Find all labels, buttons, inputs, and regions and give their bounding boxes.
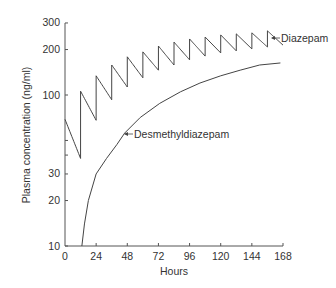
desmethyldiazepam-label: Desmethyldiazepam [134,128,229,140]
x-tick-label: 72 [153,250,165,262]
x-tick-label: 144 [243,250,261,262]
x-tick-label: 0 [62,250,68,262]
x-tick-label: 168 [274,250,292,262]
x-tick-label: 48 [121,250,133,262]
x-axis-title: Hours [160,265,188,277]
y-axis-title: Plasma concentration (ng/ml) [20,67,32,204]
y-tick-label: 30 [48,167,60,179]
x-tick-label: 96 [184,250,196,262]
y-tick-label: 300 [42,16,60,28]
annotation-desmethyldiazepam: Desmethyldiazepam [124,128,229,140]
y-tick-label: 200 [42,43,60,55]
pharmacokinetic-chart: 102030100200300 024487296120144168 Diaze… [0,0,336,288]
y-tick-label: 20 [48,194,60,206]
x-tick-label: 120 [212,250,230,262]
y-tick-label: 100 [42,89,60,101]
y-tick-label: 10 [48,240,60,252]
diazepam-label: Diazepam [281,32,329,44]
x-tick-label: 24 [90,250,102,262]
y-axis-ticks: 102030100200300 [42,16,68,251]
